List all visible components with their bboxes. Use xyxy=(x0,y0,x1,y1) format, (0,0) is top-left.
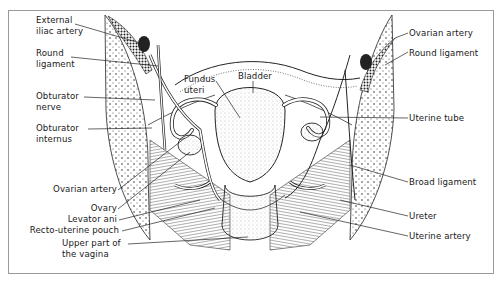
uterus xyxy=(215,88,285,183)
label-uterine-tube: Uterine tube xyxy=(409,113,464,124)
label-levator-ani: Levator ani xyxy=(68,214,117,225)
ovary-right xyxy=(301,123,323,141)
label-obturator-nerve: Obturator nerve xyxy=(36,91,79,113)
label-external-iliac-artery: External iliac artery xyxy=(36,15,83,37)
label-upper-part-vagina: Upper part of the vagina xyxy=(62,238,121,260)
label-bladder: Bladder xyxy=(238,71,272,82)
label-fundus-uteri: Fundus uteri xyxy=(184,74,215,96)
label-obturator-internus: Obturator internus xyxy=(36,123,79,145)
label-ureter: Ureter xyxy=(409,211,437,222)
label-round-ligament-left: Round ligament xyxy=(36,48,75,70)
label-broad-ligament: Broad ligament xyxy=(409,177,476,188)
label-recto-uterine-pouch: Recto-uterine pouch xyxy=(30,225,119,236)
label-ovarian-artery-right: Ovarian artery xyxy=(409,28,473,39)
label-ovarian-artery-left: Ovarian artery xyxy=(53,184,117,195)
vagina xyxy=(222,185,278,240)
levator-ani-right xyxy=(270,140,350,250)
label-ovary: Ovary xyxy=(91,203,117,214)
label-round-ligament-right: Round ligament xyxy=(409,48,478,59)
label-uterine-artery: Uterine artery xyxy=(409,231,471,242)
